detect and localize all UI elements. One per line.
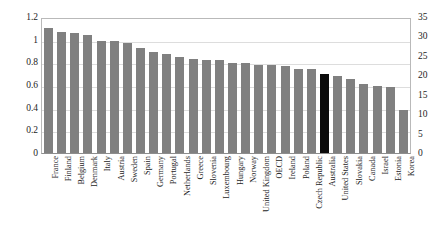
right-y-axis: 05101520253035 [414, 18, 440, 154]
bar [346, 79, 355, 153]
bar [294, 69, 303, 153]
left-axis-tick: 0.6 [26, 81, 38, 91]
bar [162, 54, 171, 153]
bar [44, 28, 53, 153]
left-axis-tick: 0 [33, 149, 38, 159]
right-axis-tick: 5 [418, 130, 423, 140]
category-label: Poland [294, 156, 303, 244]
category-label: Austria [109, 156, 118, 244]
bar [215, 60, 224, 153]
category-label: Belgium [69, 156, 78, 244]
bar [359, 84, 368, 153]
left-axis-tick: 0.4 [26, 104, 38, 114]
category-label: Greece [188, 156, 197, 244]
left-axis-tick: 1 [33, 36, 38, 46]
right-axis-tick: 35 [418, 13, 428, 23]
bar [281, 66, 290, 153]
bar [307, 69, 316, 153]
right-axis-tick: 20 [418, 72, 428, 82]
category-label: Norway [241, 156, 250, 244]
bar [241, 63, 250, 153]
category-label: Spain [136, 156, 145, 244]
category-label: Portugal [162, 156, 171, 244]
bar [70, 33, 79, 153]
category-label: Slovakia [347, 156, 356, 244]
bar [386, 87, 395, 153]
category-label: Australia [321, 156, 330, 244]
category-label: Finland [56, 156, 65, 244]
bar [202, 60, 211, 153]
bar [254, 65, 263, 153]
bar [267, 65, 276, 153]
bar [373, 86, 382, 153]
category-label: Netherlands [175, 156, 184, 244]
right-axis-tick: 15 [418, 91, 428, 101]
category-label: Germany [149, 156, 158, 244]
category-label-text: Korea [408, 156, 416, 176]
bar [320, 74, 329, 153]
left-axis-tick: 1.2 [26, 13, 38, 23]
category-label: Slovenia [202, 156, 211, 244]
category-label: France [43, 156, 52, 244]
x-axis-category-labels: FranceFinlandBelgiumDenmarkItalyAustriaS… [41, 156, 411, 244]
category-label: Czech Republic [307, 156, 316, 244]
left-axis-tick: 0.8 [26, 59, 38, 69]
bar [333, 76, 342, 153]
category-label: United States [334, 156, 343, 244]
category-label: United Kingdom [255, 156, 264, 244]
bar [57, 32, 66, 153]
bar-series [42, 19, 410, 153]
bar [110, 41, 119, 153]
bar [136, 48, 145, 153]
bar [228, 63, 237, 153]
bar [97, 41, 106, 153]
category-label: Denmark [83, 156, 92, 244]
plot-area [41, 18, 411, 154]
category-label: Israel [373, 156, 382, 244]
category-label: Ireland [281, 156, 290, 244]
bar [123, 43, 132, 153]
category-label: Canada [360, 156, 369, 244]
category-label: Korea [400, 156, 409, 244]
bar [149, 52, 158, 153]
bar [175, 57, 184, 153]
right-axis-tick: 30 [418, 33, 428, 43]
right-axis-tick: 10 [418, 110, 428, 120]
category-label: Estonia [387, 156, 396, 244]
right-axis-tick: 25 [418, 52, 428, 62]
category-label: Italy [96, 156, 105, 244]
bar [83, 35, 92, 153]
left-y-axis: 00.20.40.60.811.2 [12, 18, 38, 154]
category-label: Hungary [228, 156, 237, 244]
category-label: Luxembourg [215, 156, 224, 244]
right-axis-tick: 0 [418, 149, 423, 159]
category-label: OECD [268, 156, 277, 244]
bar [189, 59, 198, 153]
category-label: Sweden [122, 156, 131, 244]
bar-chart-figure: 00.20.40.60.811.2 05101520253035 FranceF… [0, 0, 447, 246]
bar [399, 110, 408, 153]
left-axis-tick: 0.2 [26, 127, 38, 137]
